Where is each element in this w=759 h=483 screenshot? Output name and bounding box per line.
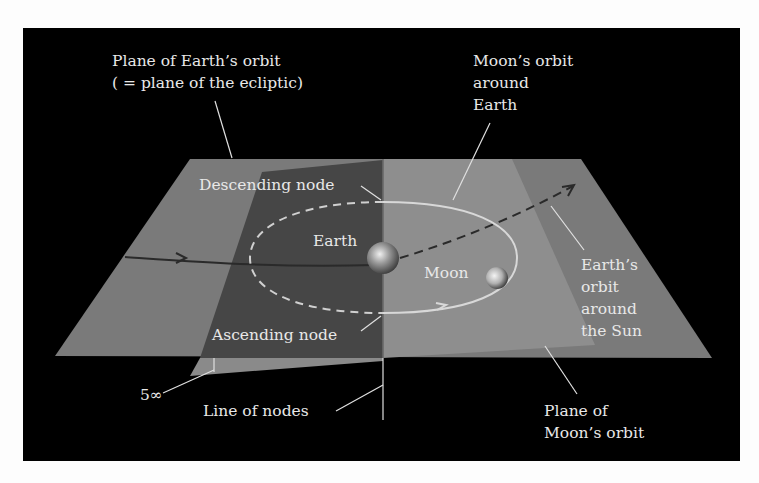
label-moon-orbit-3: Earth: [473, 96, 517, 114]
label-moon-plane-1: Plane of: [544, 402, 609, 420]
label-line-of-nodes: Line of nodes: [203, 402, 309, 420]
label-descending-node: Descending node: [199, 176, 335, 194]
label-earth: Earth: [313, 232, 357, 250]
label-moon-orbit-2: around: [473, 74, 529, 92]
label-earth-orbit-sun-3: around: [581, 300, 637, 318]
label-earth-orbit-sun-4: the Sun: [581, 322, 642, 340]
label-earth-orbit-sun-1: Earth’s: [581, 256, 638, 274]
moon-plane-wedge: [190, 358, 383, 376]
label-moon: Moon: [424, 264, 469, 282]
earth-globe: [367, 242, 399, 274]
orbit-diagram: Plane of Earth’s orbit ( = plane of the …: [0, 0, 759, 483]
label-moon-orbit-1: Moon’s orbit: [473, 52, 574, 70]
label-ecliptic-2: ( = plane of the ecliptic): [112, 74, 303, 92]
label-ascending-node: Ascending node: [211, 326, 337, 344]
label-ecliptic-1: Plane of Earth’s orbit: [112, 52, 281, 70]
label-moon-plane-2: Moon’s orbit: [544, 424, 645, 442]
label-earth-orbit-sun-2: orbit: [581, 278, 620, 296]
label-inclination: 5∞: [140, 386, 163, 404]
moon-globe: [486, 267, 508, 289]
